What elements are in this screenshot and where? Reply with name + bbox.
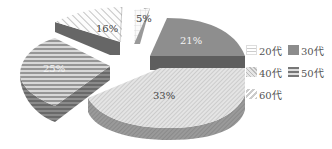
legend-swatch-20s bbox=[246, 45, 257, 55]
svg-text:5%: 5% bbox=[136, 13, 152, 24]
legend-label-60s: 60代 bbox=[259, 87, 282, 102]
slice-40s: 33% bbox=[88, 68, 245, 140]
legend-label-40s: 40代 bbox=[259, 65, 282, 80]
pie-chart: 21% 33% 25% 16% 5% bbox=[0, 0, 332, 149]
svg-text:21%: 21% bbox=[180, 35, 202, 46]
legend-label-50s: 50代 bbox=[301, 65, 324, 80]
legend-swatch-50s bbox=[288, 67, 299, 77]
legend-item-20s: 20代 bbox=[246, 44, 282, 56]
legend-swatch-30s bbox=[288, 45, 299, 55]
legend-item-40s: 40代 bbox=[246, 66, 282, 78]
legend-item-30s: 30代 bbox=[288, 44, 324, 56]
slice-30s: 21% bbox=[150, 18, 245, 70]
svg-text:33%: 33% bbox=[153, 90, 175, 101]
legend-swatch-60s bbox=[246, 89, 257, 99]
pie-chart-plot: 21% 33% 25% 16% 5% bbox=[0, 0, 332, 149]
svg-text:16%: 16% bbox=[96, 23, 118, 34]
legend-item-50s: 50代 bbox=[288, 66, 324, 78]
legend-swatch-40s bbox=[246, 67, 257, 77]
slice-20s: 5% bbox=[134, 8, 152, 44]
legend-label-30s: 30代 bbox=[301, 43, 324, 58]
legend-label-20s: 20代 bbox=[259, 43, 282, 58]
svg-text:25%: 25% bbox=[43, 63, 65, 74]
legend-item-60s: 60代 bbox=[246, 88, 282, 100]
